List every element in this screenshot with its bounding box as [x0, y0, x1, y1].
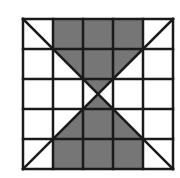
shaded-cell: [83, 139, 113, 169]
shaded-cell: [53, 139, 83, 169]
shaded-cell: [113, 139, 143, 169]
shaded-cell: [53, 19, 83, 49]
shaded-cell: [83, 109, 113, 139]
shaded-triangle: [83, 79, 113, 94]
shaded-cell: [83, 19, 113, 49]
shaded-cell: [113, 19, 143, 49]
shaded-cell: [83, 49, 113, 79]
shaded-triangle: [83, 94, 113, 109]
hourglass-grid-figure: [0, 0, 180, 178]
